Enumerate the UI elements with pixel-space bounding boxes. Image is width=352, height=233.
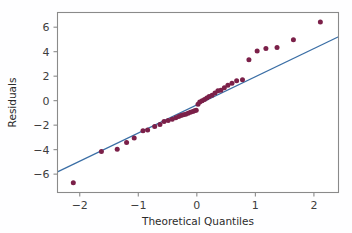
x-tick-label: 1 <box>252 199 259 212</box>
y-tick-label: 0 <box>43 95 50 108</box>
y-tick-label: −4 <box>33 144 49 157</box>
data-point <box>255 49 260 54</box>
x-tick-label: −2 <box>72 199 88 212</box>
y-tick-label: 6 <box>43 21 50 34</box>
data-point <box>115 147 120 152</box>
qq-plot-figure: −2−1012 6420−2−4−6 Theoretical Quantiles… <box>0 0 352 233</box>
data-point <box>229 81 234 86</box>
data-point <box>291 37 296 42</box>
data-point <box>152 124 157 129</box>
y-tick-label: −2 <box>33 119 49 132</box>
y-tick-label: 2 <box>43 70 50 83</box>
data-point <box>318 20 323 25</box>
data-point <box>132 136 137 141</box>
data-point <box>140 128 145 133</box>
y-axis-title: Residuals <box>6 78 18 128</box>
data-point <box>275 45 280 50</box>
data-point <box>157 122 162 127</box>
data-point <box>71 180 76 185</box>
x-tick-label: 2 <box>310 199 317 212</box>
x-tick-label: −1 <box>130 199 146 212</box>
data-point <box>194 108 199 113</box>
data-point <box>240 77 245 82</box>
data-point <box>234 78 239 83</box>
data-point <box>124 140 129 145</box>
x-axis-title: Theoretical Quantiles <box>141 215 254 227</box>
data-point <box>99 149 104 154</box>
x-tick-label: 0 <box>193 199 200 212</box>
data-point <box>145 128 150 133</box>
qq-plot-canvas: −2−1012 6420−2−4−6 Theoretical Quantiles… <box>0 0 352 233</box>
y-tick-label: 4 <box>43 46 50 59</box>
data-point <box>263 46 268 51</box>
data-point <box>246 57 251 62</box>
y-tick-label: −6 <box>33 168 49 181</box>
